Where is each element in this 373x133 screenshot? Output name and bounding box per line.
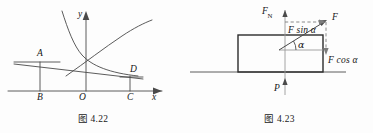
alpha-angle-label: α [298, 40, 304, 50]
figure-4-22-caption: 图 4.22 [0, 111, 186, 125]
decreasing-exponential-curve [62, 11, 138, 76]
applied-force-label: F [332, 13, 338, 23]
rectangular-block [238, 35, 323, 72]
point-label-D: D [130, 65, 137, 75]
figure-4-23-caption: 图 4.23 [186, 111, 373, 125]
weight-force-label: P [274, 84, 280, 94]
origin-label: O [79, 93, 86, 103]
force-horizontal-component-label: F cos α [328, 56, 358, 66]
figure-page: A B C D O x y 图 4.22 [0, 0, 373, 133]
normal-force-symbol: F [262, 6, 268, 16]
increasing-curve [66, 20, 152, 76]
figure-4-22-canvas [0, 0, 186, 110]
normal-force-arrowhead [282, 10, 287, 17]
y-axis-arrowhead [83, 11, 90, 20]
normal-force-label: FN [262, 7, 273, 19]
point-label-C: C [127, 93, 133, 103]
force-vertical-component-label: F sin α [288, 26, 316, 36]
figure-4-23: FN F sin α F F cos α α P 图 4.23 [186, 0, 373, 133]
x-axis-label: x [152, 93, 156, 103]
y-axis-label: y [78, 10, 82, 20]
point-label-A: A [37, 49, 43, 59]
alpha-angle-arc [294, 41, 297, 50]
segment-AD [14, 64, 143, 79]
point-label-B: B [37, 93, 43, 103]
force-horizontal-component-arrowhead [323, 48, 328, 55]
normal-force-subscript: N [268, 12, 273, 19]
figure-4-22: A B C D O x y 图 4.22 [0, 0, 186, 133]
weight-force-arrowhead [282, 78, 287, 85]
